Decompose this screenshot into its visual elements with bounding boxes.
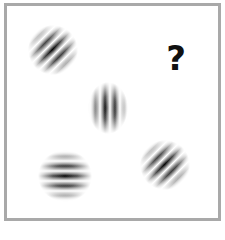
gabor-patch-diagonal-bottom-right — [140, 140, 190, 190]
gabor-patch-vertical-center — [88, 82, 128, 134]
gabor-patch-horizontal-bottom-left — [38, 150, 92, 202]
gabor-patch-diagonal-top-left — [28, 25, 78, 75]
missing-item-question-mark: ? — [163, 38, 189, 78]
